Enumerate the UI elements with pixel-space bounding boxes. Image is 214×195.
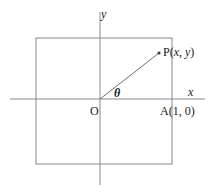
x-axis-label: x bbox=[188, 86, 193, 98]
origin-label: O bbox=[90, 105, 99, 117]
point-a-label: A(1, 0) bbox=[160, 105, 195, 117]
figure-graphics bbox=[0, 0, 214, 195]
figure-canvas: y x O θ P(x, y) A(1, 0) bbox=[0, 0, 214, 195]
angle-theta-label: θ bbox=[114, 87, 120, 99]
point-p-label: P(x, y) bbox=[163, 46, 194, 58]
radius-segment-op bbox=[100, 53, 159, 99]
point-marker-p bbox=[157, 51, 160, 54]
point-p-suffix: ) bbox=[190, 45, 194, 59]
point-p-prefix: P( bbox=[163, 45, 174, 59]
unit-square-outline bbox=[36, 38, 172, 164]
y-axis-label: y bbox=[101, 8, 106, 20]
